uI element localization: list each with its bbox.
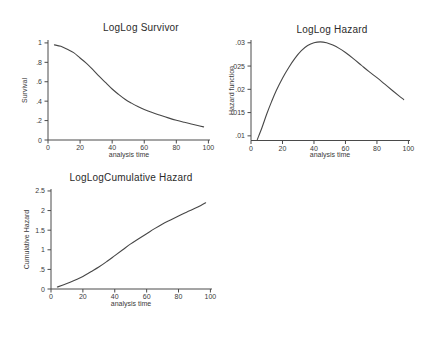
stata-graph-panel: LogLog Survivor LogLog Hazard LogLogCumu… [0,0,443,340]
y-tick-label-.5: .5 [15,266,45,273]
plot-area-svg [0,0,443,340]
x-tick-label-20: 20 [69,293,97,300]
cumulative-hazard-chart: 0.511.522.5020406080100 [0,0,443,340]
y-tick-label-2.5: 2.5 [15,187,45,194]
y-tick-label-0: 0 [15,286,45,293]
data-curve [57,203,205,287]
x-tick-label-80: 80 [165,293,193,300]
y-tick-label-1: 1 [15,246,45,253]
y-tick-label-2: 2 [15,207,45,214]
x-tick-label-40: 40 [101,293,129,300]
x-tick-label-60: 60 [133,293,161,300]
x-tick-label-100: 100 [196,293,224,300]
x-tick-label-0: 0 [37,293,65,300]
y-tick-label-1.5: 1.5 [15,227,45,234]
